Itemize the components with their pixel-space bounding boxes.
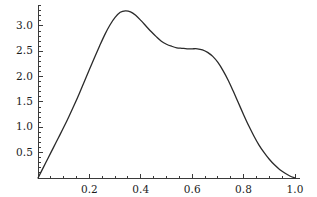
chart-canvas xyxy=(0,0,317,197)
x-tick-label: 1.0 xyxy=(280,183,310,195)
data-curve-density xyxy=(38,11,295,178)
y-tick-label: 2.0 xyxy=(4,70,33,82)
chart-container: 0.20.40.60.81.0 0.51.01.52.02.53.0 xyxy=(0,0,317,197)
y-tick-label: 1.5 xyxy=(4,95,33,107)
x-tick-label: 0.6 xyxy=(177,183,207,195)
x-tick-label: 0.2 xyxy=(74,183,104,195)
x-tick-label: 0.4 xyxy=(126,183,156,195)
y-tick-label: 3.0 xyxy=(4,19,33,31)
y-tick-label: 0.5 xyxy=(4,146,33,158)
y-tick-label: 2.5 xyxy=(4,44,33,56)
axes-group xyxy=(38,6,300,178)
y-axis-major-ticks xyxy=(38,26,43,153)
x-tick-label: 0.8 xyxy=(229,183,259,195)
x-axis-major-ticks xyxy=(89,174,295,179)
y-tick-label: 1.0 xyxy=(4,120,33,132)
